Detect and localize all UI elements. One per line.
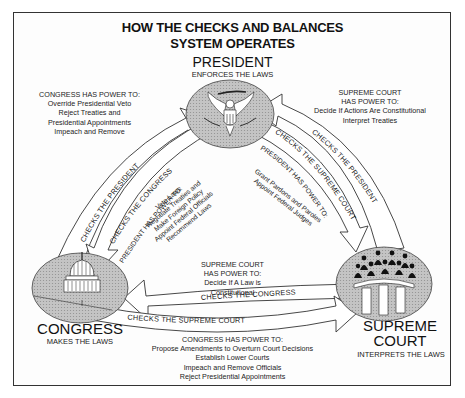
power-item: Impeach and Remove	[22, 127, 157, 136]
court-name: SUPREME COURT	[360, 318, 440, 348]
power-header: HAS POWER TO:	[180, 269, 285, 278]
court-powers-over-president: SUPREME COURT HAS POWER TO: Decide If Ac…	[305, 88, 435, 125]
power-header: SUPREME COURT	[305, 88, 435, 97]
power-header: HAS POWER TO:	[305, 97, 435, 106]
power-item: Reject Presidential Appointments	[140, 372, 325, 381]
power-item: Presidential Appointments	[22, 118, 157, 127]
power-item: Decide If A Law is	[180, 278, 285, 287]
power-item: Interpret Treaties	[305, 116, 435, 125]
congress-powers-over-president: CONGRESS HAS POWER TO: Override Presiden…	[22, 90, 157, 136]
power-header: CONGRESS HAS POWER TO:	[22, 90, 157, 99]
congress-powers-over-court: CONGRESS HAS POWER TO: Propose Amendment…	[140, 335, 325, 381]
court-name-line-1: SUPREME	[360, 318, 440, 333]
power-item: Propose Amendments to Overturn Court Dec…	[140, 344, 325, 353]
power-item: Reject Treaties and	[22, 108, 157, 117]
congress-name: CONGRESS	[25, 320, 135, 337]
court-name-line-2: COURT	[360, 333, 440, 348]
president-seal	[186, 80, 274, 148]
court-powers-over-congress: SUPREME COURT HAS POWER TO: Decide If A …	[180, 260, 285, 297]
president-name: PRESIDENT	[180, 54, 285, 70]
power-header: CONGRESS HAS POWER TO:	[140, 335, 325, 344]
power-item: Establish Lower Courts	[140, 353, 325, 362]
power-item: Override Presidential Veto	[22, 99, 157, 108]
power-item: Constitutional	[180, 288, 285, 297]
supreme-court-justices	[336, 247, 432, 321]
president-role: ENFORCES THE LAWS	[170, 70, 295, 79]
court-role: INTERPRETS THE LAWS	[346, 350, 456, 359]
power-header: SUPREME COURT	[180, 260, 285, 269]
power-item: Impeach and Remove Officials	[140, 363, 325, 372]
congress-capitol	[32, 252, 128, 323]
power-item: Decide If Actions Are Constitutional	[305, 106, 435, 115]
congress-role: MAKES THE LAWS	[25, 337, 135, 346]
